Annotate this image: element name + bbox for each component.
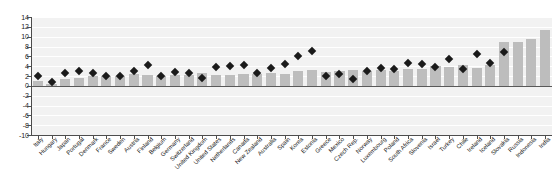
bar [225, 75, 235, 86]
bar-slot [525, 17, 539, 135]
y-axis-line [31, 17, 32, 136]
data-marker [34, 72, 42, 80]
y-axis-tick [27, 27, 31, 28]
data-marker [472, 50, 480, 58]
y-axis-tick [27, 125, 31, 126]
y-axis-tick [27, 76, 31, 77]
bar-slot [470, 17, 484, 135]
y-axis-tick-label: 0 [5, 82, 29, 89]
y-axis-tick-label: -4 [5, 102, 29, 109]
bar [238, 74, 248, 86]
bars-layer [31, 17, 552, 135]
bar-slot [196, 17, 210, 135]
data-marker [143, 61, 151, 69]
bar-slot [511, 17, 525, 135]
y-axis-tick [27, 66, 31, 67]
y-axis-labels: 14121086420-2-4-6-8-10 [0, 0, 29, 193]
y-axis-tick [27, 47, 31, 48]
y-axis-tick-label: 6 [5, 53, 29, 60]
data-marker [404, 58, 412, 66]
bar [307, 70, 317, 86]
bar-slot [31, 17, 45, 135]
bar-slot [360, 17, 374, 135]
y-axis-tick [27, 135, 31, 136]
bar-slot [154, 17, 168, 135]
bar [485, 65, 495, 86]
bar [540, 30, 550, 86]
bar-slot [319, 17, 333, 135]
bar-slot [182, 17, 196, 135]
data-marker [267, 64, 275, 72]
bar-slot [86, 17, 100, 135]
bar-slot [292, 17, 306, 135]
y-axis-tick-label: 12 [5, 23, 29, 30]
y-axis-tick-label: 14 [5, 14, 29, 21]
bar-slot [497, 17, 511, 135]
bar [280, 74, 290, 86]
bar-slot [456, 17, 470, 135]
y-axis-tick-label: -8 [5, 122, 29, 129]
plot-area [31, 17, 552, 135]
data-marker [445, 55, 453, 63]
bar [74, 78, 84, 86]
y-axis-tick [27, 37, 31, 38]
bar-slot [45, 17, 59, 135]
bar-slot [127, 17, 141, 135]
data-marker [239, 61, 247, 69]
data-marker [61, 69, 69, 77]
bar [170, 75, 180, 86]
bar-slot [141, 17, 155, 135]
bar-slot [305, 17, 319, 135]
y-axis-tick-label: 4 [5, 63, 29, 70]
bar [211, 75, 221, 86]
bar [266, 73, 276, 86]
data-marker [280, 59, 288, 67]
bar-slot [168, 17, 182, 135]
y-axis-tick [27, 96, 31, 97]
y-axis-tick [27, 17, 31, 18]
y-axis-tick-label: -2 [5, 92, 29, 99]
bar-slot [100, 17, 114, 135]
data-marker [294, 52, 302, 60]
y-axis-tick [27, 106, 31, 107]
bar-slot [72, 17, 86, 135]
chart-container: 14121086420-2-4-6-8-10 ItalyHungaryJapan… [0, 0, 558, 193]
data-marker [417, 60, 425, 68]
bar [60, 79, 70, 85]
bar-slot [415, 17, 429, 135]
bar [33, 81, 43, 86]
y-axis-tick-label: -10 [5, 132, 29, 139]
bar-slot [483, 17, 497, 135]
bar [472, 68, 482, 86]
y-axis-tick [27, 56, 31, 57]
y-axis-tick-label: -6 [5, 112, 29, 119]
bar [129, 74, 139, 86]
x-axis-labels: ItalyHungaryJapanPortugalDenmarkFranceSw… [31, 136, 552, 193]
bar [513, 42, 523, 86]
bar [293, 71, 303, 86]
y-axis-tick [27, 115, 31, 116]
bar [444, 67, 454, 86]
bar [142, 75, 152, 86]
data-marker [212, 63, 220, 71]
bar-slot [346, 17, 360, 135]
y-axis-tick-label: 8 [5, 43, 29, 50]
bar-slot [442, 17, 456, 135]
bar [417, 69, 427, 86]
y-axis-tick [27, 86, 31, 87]
y-axis-tick-label: 2 [5, 73, 29, 80]
bar-slot [58, 17, 72, 135]
data-marker [226, 62, 234, 70]
bar [403, 69, 413, 86]
bar-slot [113, 17, 127, 135]
y-axis-tick-label: 10 [5, 33, 29, 40]
data-marker [75, 66, 83, 74]
bar [526, 39, 536, 86]
bar-slot [387, 17, 401, 135]
data-marker [308, 47, 316, 55]
bar-slot [333, 17, 347, 135]
